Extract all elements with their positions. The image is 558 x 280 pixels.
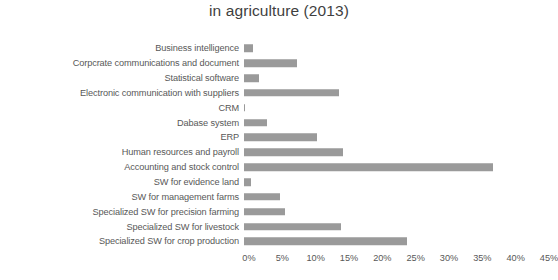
bar-row: Accounting and stock control [0,160,558,175]
bar-track [244,100,558,115]
bar-10 [244,178,251,186]
bar-track [244,115,558,130]
category-label: Specialized SW for livestock [0,222,244,232]
bar-track [244,189,558,204]
bar-track [244,130,558,145]
x-tick-label: 20% [373,253,391,263]
category-label: SW for management farms [0,192,244,202]
bar-row: SW for management farms [0,189,558,204]
bar-12 [244,208,285,216]
chart-figure: Use of software in agriculture (2013) Bu… [0,0,558,280]
x-tick-label: 10% [306,253,324,263]
bar-track [244,56,558,71]
bar-3 [244,74,259,82]
bar-4 [244,89,339,97]
bar-track [244,145,558,160]
category-label: Dabase system [0,118,244,128]
bar-row: CRM [0,100,558,115]
bar-8 [244,149,343,157]
category-label: SW for evidence land [0,177,244,187]
bar-track [244,41,558,56]
bar-track [244,175,558,190]
bar-track [244,204,558,219]
bar-1 [244,45,253,53]
category-label: Human resources and payroll [0,147,244,157]
category-label: Business intelligence [0,43,244,53]
bar-row: Dabase system [0,115,558,130]
x-tick-label: 15% [340,253,358,263]
x-tick-label: 30% [440,253,458,263]
bar-track [244,86,558,101]
bar-row: Human resources and payroll [0,145,558,160]
bar-row: Specialized SW for livestock [0,219,558,234]
bar-row: Business intelligence [0,41,558,56]
bar-row: Specialized SW for precision farming [0,204,558,219]
category-label: Corpcrate communications and document [0,58,244,68]
bar-track [244,160,558,175]
bar-6 [244,119,267,127]
chart-title: in agriculture (2013) [0,2,558,20]
x-axis: 0%5%10%15%20%25%30%35%40%45% [249,249,549,275]
category-label: Specialized SW for crop production [0,236,244,246]
x-tick-label: 45% [540,253,558,263]
plot-area: Business intelligence Corpcrate communic… [0,41,558,249]
bar-9 [244,163,493,171]
category-label: ERP [0,132,244,142]
x-tick-label: 25% [406,253,424,263]
category-label: Statistical software [0,73,244,83]
x-tick-label: 5% [276,253,289,263]
category-label: Accounting and stock control [0,162,244,172]
bar-row: Statistical software [0,71,558,86]
bar-14 [244,238,407,246]
x-tick-label: 40% [506,253,524,263]
bar-7 [244,134,317,142]
bar-2 [244,60,297,68]
category-label: Specialized SW for precision farming [0,207,244,217]
bar-row: Electronic communication with suppliers [0,86,558,101]
bar-track [244,234,558,249]
bar-11 [244,193,280,201]
bar-row: Specialized SW for crop production [0,234,558,249]
x-tick-label: 0% [242,253,255,263]
bar-track [244,219,558,234]
category-label: CRM [0,103,244,113]
bar-13 [244,223,341,231]
bar-row: SW for evidence land [0,175,558,190]
category-label: Electronic communication with suppliers [0,88,244,98]
bar-5 [244,104,245,112]
bar-row: ERP [0,130,558,145]
x-tick-label: 35% [473,253,491,263]
bar-row: Corpcrate communications and document [0,56,558,71]
bar-track [244,71,558,86]
